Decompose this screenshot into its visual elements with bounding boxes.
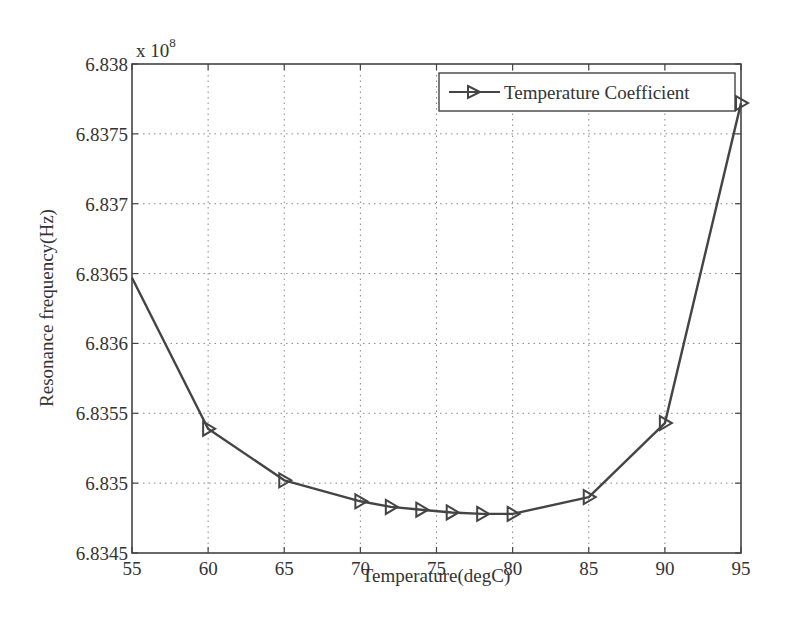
y-tick-label: 6.8355 bbox=[76, 403, 128, 424]
triangle-right-marker-icon bbox=[736, 96, 748, 110]
y-tick-labels: 6.83456.8356.83556.8366.83656.8376.83756… bbox=[76, 54, 128, 564]
x-tick-label: 85 bbox=[579, 558, 598, 579]
x-tick-label: 90 bbox=[655, 558, 674, 579]
y-multiplier-label: x 108 bbox=[136, 35, 176, 61]
y-axis-label: Resonance frequency(Hz) bbox=[36, 209, 58, 407]
x-tick-label: 65 bbox=[275, 558, 294, 579]
y-tick-label: 6.8375 bbox=[76, 124, 128, 145]
axis-ticks bbox=[132, 64, 741, 553]
x-tick-label: 95 bbox=[732, 558, 751, 579]
y-tick-label: 6.8365 bbox=[76, 264, 128, 285]
y-tick-label: 6.838 bbox=[85, 54, 128, 75]
legend[interactable]: Temperature Coefficient bbox=[439, 73, 735, 111]
series-line bbox=[132, 103, 741, 514]
y-tick-label: 6.837 bbox=[85, 194, 128, 215]
y-tick-label: 6.836 bbox=[85, 333, 128, 354]
data-series bbox=[132, 96, 748, 521]
x-axis-label: Temperature(degC) bbox=[362, 565, 510, 587]
legend-label: Temperature Coefficient bbox=[504, 82, 690, 103]
plot-frame bbox=[132, 64, 741, 553]
chart-canvas: 556065707580859095 6.83456.8356.83556.83… bbox=[0, 0, 786, 636]
grid-lines bbox=[132, 64, 741, 553]
x-tick-label: 60 bbox=[199, 558, 218, 579]
y-tick-label: 6.835 bbox=[85, 473, 128, 494]
y-tick-label: 6.8345 bbox=[76, 543, 128, 564]
